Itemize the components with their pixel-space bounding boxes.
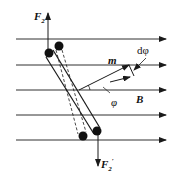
conductor-top-2 <box>55 42 64 51</box>
label-dphi: dφ <box>137 45 149 56</box>
label-m: m <box>108 55 117 66</box>
conductor-bottom-1 <box>79 132 88 141</box>
label-phi: φ <box>111 97 117 108</box>
rotated-m-arrow <box>110 77 130 82</box>
label-f2prime: F2′ <box>101 158 114 173</box>
conductor-bottom-2 <box>93 127 102 136</box>
diagram: F2 F2′ m B φ dφ <box>0 0 173 177</box>
label-b: B <box>136 94 143 105</box>
moment-m-arrow <box>79 65 129 90</box>
phi-arc <box>88 85 90 90</box>
dphi-leader <box>134 58 146 70</box>
diagram-svg <box>0 0 173 177</box>
dm-line <box>129 65 134 76</box>
conductor-top-1 <box>45 49 54 58</box>
label-f2: F2 <box>34 11 45 25</box>
